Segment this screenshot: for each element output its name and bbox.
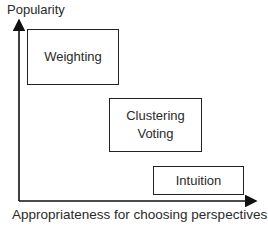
box-clustering-label: Clustering: [126, 107, 185, 125]
box-weighting: Weighting: [27, 29, 119, 85]
box-clustering-voting: Clustering Voting: [109, 98, 202, 152]
box-voting-label: Voting: [137, 125, 173, 143]
box-intuition: Intuition: [153, 166, 244, 195]
box-weighting-label: Weighting: [44, 48, 102, 66]
box-intuition-label: Intuition: [176, 172, 222, 190]
y-axis-label: Popularity: [7, 2, 65, 17]
x-axis-label: Appropriateness for choosing perspective…: [12, 207, 267, 222]
